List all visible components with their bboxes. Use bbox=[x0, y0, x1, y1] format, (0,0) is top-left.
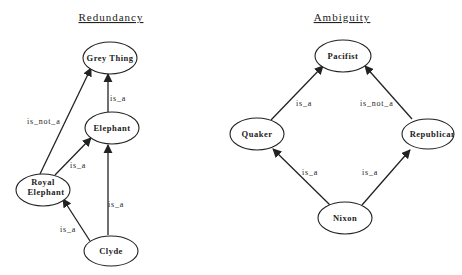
edge-nixon-quaker: is_a bbox=[273, 149, 330, 205]
ambiguity-title: Ambiguity bbox=[314, 11, 371, 23]
edge-label: is_a bbox=[60, 225, 76, 234]
node-label: Quaker bbox=[242, 129, 273, 139]
edge-label: is_not_a bbox=[360, 99, 394, 108]
edge-republican-pacifist: is_not_a bbox=[360, 66, 412, 119]
edge-label: is_a bbox=[296, 99, 312, 108]
edge-label: is_a bbox=[362, 168, 378, 177]
node-grey-thing: Grey Thing bbox=[83, 42, 137, 74]
node-clyde: Clyde bbox=[84, 236, 138, 266]
diagram-canvas: Redundancy is_a is_not_a is_a is_a is_a … bbox=[0, 0, 462, 275]
node-nixon: Nixon bbox=[318, 202, 372, 234]
edge-clyde-royal-elephant: is_a bbox=[60, 199, 90, 241]
node-label: Royal bbox=[31, 177, 55, 187]
edge-royal-elephant-elephant: is_a bbox=[55, 138, 91, 175]
node-label: Clyde bbox=[99, 246, 123, 256]
redundancy-diagram: Redundancy is_a is_not_a is_a is_a is_a … bbox=[16, 11, 143, 266]
edge-nixon-republican: is_a bbox=[362, 150, 410, 205]
edge-label: is_a bbox=[302, 168, 318, 177]
edge-quaker-pacifist: is_a bbox=[271, 66, 323, 120]
edge-label: is_a bbox=[110, 94, 126, 103]
node-label: Elephant bbox=[93, 123, 130, 133]
edge-clyde-elephant: is_a bbox=[108, 145, 124, 235]
node-republican: Republican bbox=[402, 119, 456, 149]
ambiguity-diagram: Ambiguity is_a is_not_a is_a is_a Pacifi… bbox=[230, 11, 456, 234]
node-label: Republican bbox=[410, 129, 457, 139]
node-quaker: Quaker bbox=[230, 118, 284, 150]
node-label: Elephant bbox=[27, 187, 64, 197]
node-label: Nixon bbox=[333, 213, 357, 223]
edge-label: is_a bbox=[108, 200, 124, 209]
edge-label: is_a bbox=[70, 161, 86, 170]
redundancy-title: Redundancy bbox=[79, 11, 144, 23]
node-label: Pacifist bbox=[328, 51, 359, 61]
edge-elephant-grey-thing: is_a bbox=[108, 74, 126, 112]
edge-royal-elephant-grey-thing: is_not_a bbox=[27, 68, 91, 174]
node-elephant: Elephant bbox=[85, 112, 139, 144]
node-royal-elephant: Royal Elephant bbox=[16, 174, 70, 206]
edge-label: is_not_a bbox=[27, 117, 61, 126]
node-pacifist: Pacifist bbox=[315, 40, 371, 72]
node-label: Grey Thing bbox=[87, 53, 134, 63]
